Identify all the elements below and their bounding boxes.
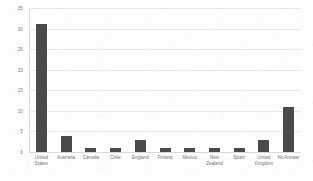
y-axis-tick-labels: 05101520253035 <box>0 0 29 181</box>
y-tick-label: 5 <box>20 129 23 134</box>
x-tick-label-line: Kingdom <box>247 161 281 167</box>
bar[interactable] <box>184 148 195 152</box>
bar[interactable] <box>258 140 269 152</box>
y-tick-label: 20 <box>18 67 23 72</box>
y-tick-label: 15 <box>18 88 23 93</box>
bar[interactable] <box>135 140 146 152</box>
bar[interactable] <box>283 107 294 152</box>
bar[interactable] <box>160 148 171 152</box>
x-tick-label-line: No Answer <box>272 155 306 161</box>
bars <box>29 8 301 152</box>
bar-chart: 05101520253035 UnitedStatesAustraliaCana… <box>0 0 313 181</box>
bar[interactable] <box>36 24 47 152</box>
bar[interactable] <box>110 148 121 152</box>
plot-area <box>29 8 301 152</box>
y-tick-label: 0 <box>20 150 23 155</box>
x-axis-category-labels: UnitedStatesAustraliaCanadaChileEnglandF… <box>29 155 301 181</box>
bar[interactable] <box>61 136 72 152</box>
y-tick-label: 25 <box>18 47 23 52</box>
gridline <box>29 152 301 153</box>
bar[interactable] <box>85 148 96 152</box>
y-tick-label: 10 <box>18 108 23 113</box>
x-tick-label: No Answer <box>272 155 306 161</box>
x-tick-label-line: Zealand <box>197 161 231 167</box>
x-tick-label-line: States <box>24 161 58 167</box>
y-tick-label: 35 <box>18 6 23 11</box>
bar[interactable] <box>234 148 245 152</box>
bar[interactable] <box>209 148 220 152</box>
y-tick-label: 30 <box>18 26 23 31</box>
